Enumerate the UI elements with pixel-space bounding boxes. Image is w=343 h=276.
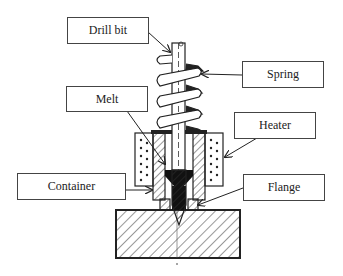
label-spring: Spring xyxy=(242,61,324,88)
drill-bit-shaft xyxy=(172,42,186,225)
label-heater: Heater xyxy=(234,112,316,139)
label-container: Container xyxy=(17,173,126,200)
label-flange: Flange xyxy=(243,174,325,201)
label-drill-bit: Drill bit xyxy=(67,17,149,44)
label-melt: Melt xyxy=(66,86,148,112)
